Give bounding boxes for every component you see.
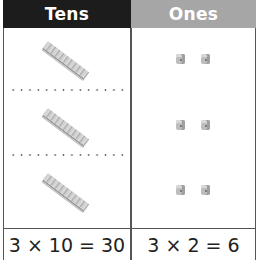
unit-cube-icon — [201, 120, 210, 130]
unit-cube-icon — [201, 54, 210, 64]
unit-cube-icon — [176, 185, 185, 195]
column-divider — [130, 28, 132, 260]
place-value-table: Tens Ones 3 × 10 = 30 3 × 2 = 6 — [3, 0, 256, 260]
ten-rod-icon — [42, 108, 90, 147]
dotted-row-separator — [9, 89, 127, 91]
right-border — [255, 28, 256, 260]
tens-equation: 3 × 10 = 30 — [4, 229, 130, 260]
ten-rod-icon — [42, 41, 90, 80]
ones-equation: 3 × 2 = 6 — [132, 229, 255, 260]
left-border — [3, 28, 4, 260]
unit-cube-icon — [176, 120, 185, 130]
unit-cube-icon — [201, 185, 210, 195]
ten-rod-icon — [42, 173, 90, 212]
dotted-row-separator — [9, 154, 127, 156]
ones-header: Ones — [131, 0, 256, 28]
unit-cube-icon — [176, 54, 185, 64]
tens-header: Tens — [3, 0, 131, 28]
